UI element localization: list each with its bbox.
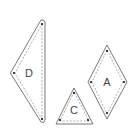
piece-d: D [11,20,46,123]
corner-dot [13,72,15,74]
corner-dot [106,50,108,52]
corner-dot [106,112,108,114]
corner-dot [123,81,125,83]
corner-dot [73,92,75,94]
piece-c: C [56,88,93,124]
piece-a: A [88,45,127,119]
corner-dot [59,119,61,121]
piece-label-c: C [70,104,78,116]
corner-dot [41,118,43,120]
corner-dot [90,81,92,83]
corner-dot [87,119,89,121]
pattern-diagram: D C A [0,0,139,128]
piece-label-a: A [103,76,111,88]
corner-dot [41,23,43,25]
piece-label-d: D [25,67,33,79]
